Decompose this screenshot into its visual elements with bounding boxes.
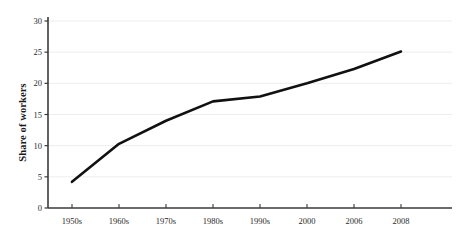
y-tick-label: 0 <box>20 203 42 213</box>
x-tick-label: 1970s <box>156 216 176 226</box>
y-tick-label: 15 <box>20 110 42 120</box>
chart-axes <box>48 17 452 208</box>
x-tick-label: 1950s <box>62 216 82 226</box>
y-tick-label: 20 <box>20 78 42 88</box>
y-tick-label: 10 <box>20 141 42 151</box>
chart-plot-area <box>0 0 462 244</box>
x-tick-label: 1960s <box>109 216 129 226</box>
x-tick-label: 1990s <box>250 216 270 226</box>
x-tick-label: 2000 <box>299 216 316 226</box>
y-tick-label: 30 <box>20 16 42 26</box>
y-tick-label: 5 <box>20 172 42 182</box>
x-tick-label: 2006 <box>346 216 363 226</box>
y-tick-label: 25 <box>20 47 42 57</box>
series-line-share-of-workers <box>72 52 401 182</box>
data-series-line <box>72 52 401 182</box>
x-tick-label: 1980s <box>203 216 223 226</box>
line-chart: Share of workers 051015202530 1950s1960s… <box>0 0 462 244</box>
x-tick-label: 2008 <box>393 216 410 226</box>
